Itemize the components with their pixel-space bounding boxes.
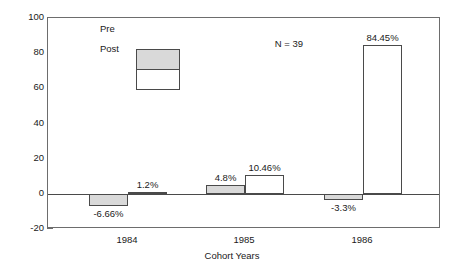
plot-area: -6.66%1.2%4.8%10.46%-3.3%84.45% Pre Post… [47,17,440,228]
bar-value-1984-post: 1.2% [113,179,183,190]
legend-label-pre: Pre [100,23,115,34]
x-tick-label-1986: 1986 [317,234,407,245]
sample-size-annotation: N = 39 [244,38,334,49]
legend-swatch-pre [136,49,180,70]
bar-1985-post [245,175,284,193]
x-axis-title: Cohort Years [0,250,464,261]
y-tick-label: 80 [4,47,44,57]
chart-figure: 100806040200-20 -6.66%1.2%4.8%10.46%-3.3… [0,0,464,270]
bar-1984-pre [89,194,128,206]
y-tick-label: 0 [4,188,44,198]
bar-value-1986-post: 84.45% [348,32,418,43]
y-tick-label: 100 [4,12,44,22]
y-tick-mark [47,228,53,229]
y-tick-label: -20 [4,223,44,233]
bar-1986-pre [324,194,363,200]
y-axis: 100806040200-20 [0,0,44,270]
bar-1985-pre [206,185,245,193]
y-tick-label: 60 [4,82,44,92]
legend-label-post: Post [100,43,119,54]
bar-value-1984-pre: -6.66% [74,208,144,219]
legend-swatch-post [136,69,180,90]
x-tick-label-1985: 1985 [199,234,289,245]
legend [136,49,180,91]
x-tick-label-1984: 1984 [82,234,172,245]
bar-1984-post [128,192,167,194]
bar-value-1985-post: 10.46% [230,162,300,173]
y-tick-label: 20 [4,153,44,163]
bar-1986-post [363,45,402,193]
y-tick-label: 40 [4,118,44,128]
bar-value-1986-pre: -3.3% [309,202,379,213]
